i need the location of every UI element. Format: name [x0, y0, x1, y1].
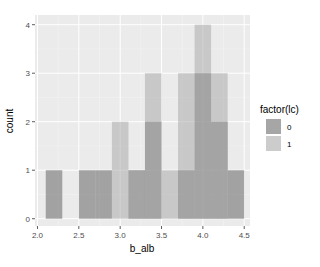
x-tick-label: 4.5	[239, 231, 251, 240]
x-tick-label: 3.5	[156, 231, 168, 240]
y-tick-label: 3	[26, 69, 31, 78]
histogram-bar	[228, 170, 245, 219]
y-axis-title: count	[4, 109, 15, 134]
histogram-bar	[112, 122, 129, 219]
y-tick-label: 4	[26, 21, 31, 30]
histogram-chart: 01234 2.02.53.03.54.04.5 b_alb count fac…	[0, 0, 320, 267]
y-tick-label: 1	[26, 166, 31, 175]
legend-key	[266, 136, 281, 151]
histogram-bar	[211, 73, 228, 219]
x-tick-label: 2.5	[73, 231, 85, 240]
legend-title: factor(lc)	[260, 104, 299, 115]
y-axis: 01234	[26, 21, 35, 224]
x-tick-label: 2.0	[32, 231, 44, 240]
legend-key	[266, 119, 281, 134]
x-axis: 2.02.53.03.54.04.5	[32, 226, 250, 240]
histogram-bar	[79, 170, 96, 219]
histogram-bar	[178, 73, 195, 219]
legend-label: 0	[287, 123, 292, 132]
x-tick-label: 4.0	[197, 231, 209, 240]
histogram-bar	[95, 170, 112, 219]
histogram-bar	[145, 73, 162, 219]
legend: factor(lc) 01	[260, 104, 299, 151]
y-tick-label: 2	[26, 118, 31, 127]
histogram-bar	[195, 25, 212, 219]
x-tick-label: 3.0	[115, 231, 127, 240]
legend-label: 1	[287, 140, 292, 149]
y-tick-label: 0	[26, 215, 31, 224]
histogram-bar	[46, 170, 63, 219]
histogram-bar	[162, 170, 179, 219]
histogram-bar	[128, 170, 145, 219]
x-axis-title: b_alb	[130, 243, 155, 254]
